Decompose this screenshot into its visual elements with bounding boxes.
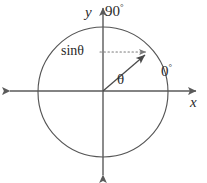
y-axis-label: y	[85, 5, 92, 20]
angle-0-label: 0°	[161, 63, 172, 79]
sine-theta-label: sinθ	[61, 44, 84, 58]
angle-90-value: 90	[105, 3, 120, 19]
angle-90-label: 90°	[105, 3, 124, 19]
degree-symbol-0: °	[169, 62, 173, 72]
theta-label: θ	[117, 72, 124, 87]
angle-0-value: 0	[161, 63, 169, 79]
unit-circle-diagram: y x 90° 0° sinθ θ	[0, 0, 207, 183]
x-axis-label: x	[190, 95, 197, 110]
diagram-canvas	[0, 0, 207, 183]
degree-symbol-90: °	[120, 2, 124, 12]
